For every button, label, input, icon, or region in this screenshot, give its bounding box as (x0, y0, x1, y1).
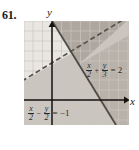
exercise-number: 61. (2, 8, 16, 23)
fraction-x-over-2-solid: x 2 (86, 62, 92, 80)
fraction-y-over-2-dashed: y 2 (44, 105, 50, 123)
fraction-denominator: 3 (102, 70, 108, 79)
equation-right-side: = −1 (52, 109, 70, 118)
fraction-denominator: 2 (44, 113, 50, 122)
fraction-numerator: y (44, 105, 50, 113)
fraction-x-over-2-dashed: x 2 (28, 105, 34, 123)
y-axis-label: y (47, 6, 52, 18)
equation-label-solid: x 2 + y 3 = 2 (86, 62, 122, 80)
fraction-numerator: x (28, 105, 34, 113)
fraction-denominator: 2 (86, 70, 92, 79)
exercise-figure: 61. (0, 0, 139, 150)
equation-operator: − (36, 110, 42, 118)
x-axis-label: x (130, 95, 135, 107)
fraction-y-over-3-solid: y 3 (102, 62, 108, 80)
equation-label-dashed: x 2 − y 2 = −1 (28, 105, 69, 123)
equation-operator: + (94, 67, 100, 75)
fraction-numerator: y (102, 62, 108, 70)
equation-right-side: = 2 (110, 66, 123, 75)
fraction-numerator: x (86, 62, 92, 70)
fraction-denominator: 2 (28, 113, 34, 122)
